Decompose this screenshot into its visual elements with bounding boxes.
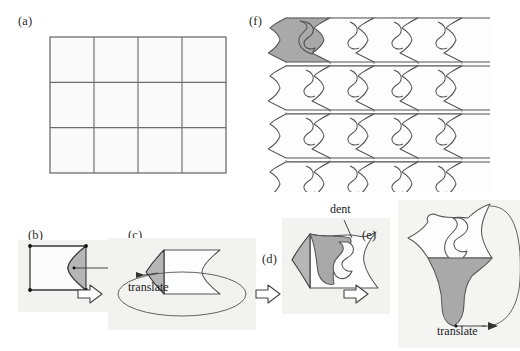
step-arrow-3: [342, 282, 376, 306]
panel-label-a: (a): [18, 14, 32, 29]
figure-canvas: (a) (f): [0, 0, 520, 351]
panel-label-d: (d): [262, 252, 277, 267]
panel-label-e: (e): [362, 228, 376, 243]
annotation-dent-d: dent: [330, 202, 351, 217]
annotation-translate-c: translate: [128, 280, 169, 295]
annotation-translate-e: translate: [437, 324, 478, 339]
step-arrow-1: [76, 282, 110, 306]
panel-a-grid: [44, 32, 234, 182]
panel-label-f: (f): [249, 14, 262, 29]
panel-f-tessellation: [268, 10, 490, 192]
